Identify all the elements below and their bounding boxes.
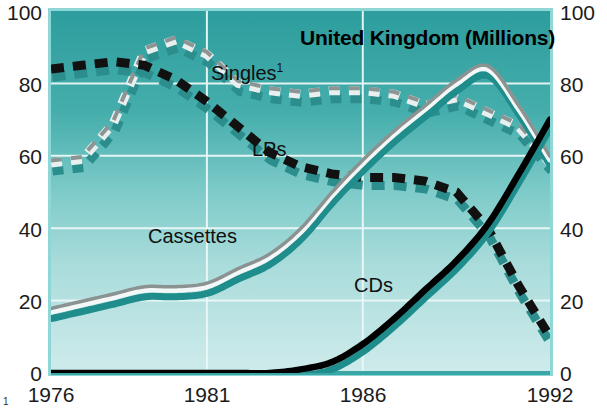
y-axis-right-tick-20: 20 [560, 291, 607, 312]
series-label-cassettes: Cassettes [148, 226, 237, 246]
y-axis-right-tick-60: 60 [560, 146, 607, 167]
chart-title: United Kingdom (Millions) [300, 27, 555, 48]
y-axis-right-tick-80: 80 [560, 74, 607, 95]
y-axis-left-tick-0: 0 [0, 363, 42, 384]
chart-figure: United Kingdom (Millions) Singles1 LPs C… [0, 0, 607, 410]
y-axis-right-tick-0: 0 [560, 363, 607, 384]
y-axis-left-tick-60: 60 [0, 146, 42, 167]
x-axis-tick-1976: 1976 [11, 384, 91, 405]
y-axis-left-tick-80: 80 [0, 74, 42, 95]
series-label-lps: LPs [252, 139, 286, 159]
y-axis-right-tick-40: 40 [560, 219, 607, 240]
y-axis-left-tick-40: 40 [0, 219, 42, 240]
chart-plot-area [0, 0, 607, 410]
footnote-marker: 1 [3, 396, 9, 407]
series-label-singles-text: Singles [211, 62, 277, 84]
y-axis-right-tick-100: 100 [560, 2, 607, 23]
series-label-singles: Singles1 [211, 58, 283, 83]
x-axis-tick-1986: 1986 [323, 384, 403, 405]
x-axis-tick-1992: 1992 [510, 384, 590, 405]
x-axis-tick-1981: 1981 [167, 384, 247, 405]
series-label-singles-superscript: 1 [277, 61, 284, 75]
series-label-cds: CDs [354, 275, 393, 295]
y-axis-left-tick-100: 100 [0, 2, 42, 23]
y-axis-left-tick-20: 20 [0, 291, 42, 312]
